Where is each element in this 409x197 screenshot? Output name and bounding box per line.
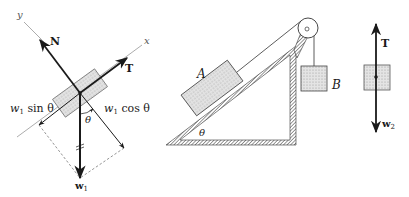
y-axis [24,22,44,42]
block-b [301,66,327,91]
physics-diagram [0,0,409,197]
weight-label-b: w2 [382,119,395,129]
cos-component-label: w1 cos θ [104,103,150,114]
tension-label-b: T [381,38,389,49]
cos-component-symbol: w [104,102,113,115]
normal-force-label: N [50,36,60,47]
weight-subscript-b: 2 [391,123,395,131]
cos-component-text: cos θ [121,102,150,115]
left-free-body-diagram [17,22,142,178]
block-a-label: A [197,68,206,80]
block-b-label: B [332,79,341,91]
weight-label: w1 [75,181,88,191]
pulley-axle [305,27,309,31]
sin-component-text: sin θ [27,102,53,115]
tension-label: T [125,63,133,74]
x-axis-label: x [144,36,150,46]
block-a [181,60,243,116]
sin-component-subscript: 1 [19,108,23,116]
weight-symbol-b: w [382,118,391,129]
dashed-line-cos [80,148,124,178]
angle-label: θ [85,115,91,125]
normal-force-vector [40,40,80,93]
incline-angle-label: θ [199,128,205,138]
sin-component-label: w1 sin θ [10,103,54,114]
weight-subscript: 1 [84,185,88,193]
center-point [78,91,82,95]
y-axis-label: y [17,10,23,20]
cos-component-subscript: 1 [113,108,117,116]
dashed-line-sin [39,125,80,178]
incline-apparatus [166,18,327,145]
weight-symbol: w [75,180,84,191]
center-point-b [374,75,378,79]
sin-component-symbol: w [10,102,19,115]
